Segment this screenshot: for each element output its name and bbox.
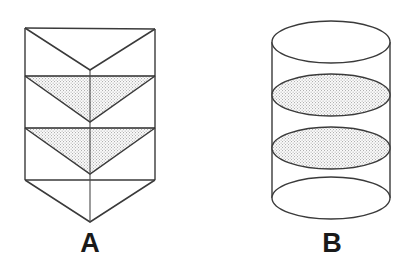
figure-b-label: B — [302, 230, 362, 257]
figure-a-v-fold-1 — [25, 28, 155, 70]
figure-b-bottom-ellipse — [272, 177, 390, 219]
figure-a-top-edge — [25, 28, 155, 29]
figures-illustration — [0, 0, 406, 269]
figure-a — [25, 28, 155, 222]
figure-b-shaded-section-lower — [272, 127, 390, 169]
figure-b-top-ellipse — [272, 21, 390, 63]
figure-a-label: A — [60, 230, 120, 257]
figure-b — [272, 21, 390, 219]
figure-b-shaded-section-upper — [272, 74, 390, 116]
